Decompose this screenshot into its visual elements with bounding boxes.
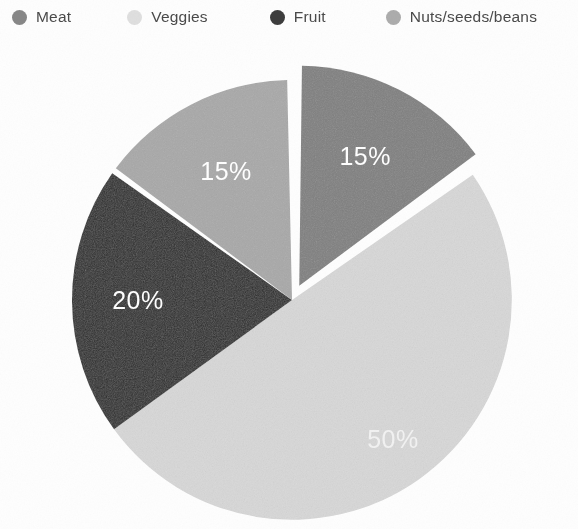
legend-swatch-fruit-icon [270, 10, 285, 25]
legend-item-fruit[interactable]: Fruit [270, 8, 326, 26]
pie-slice-label-nuts-seeds-beans: 15% [200, 157, 252, 185]
legend-label-veggies: Veggies [151, 8, 208, 26]
pie-plot-area: 15%50%20%15% [0, 34, 578, 529]
pie-slice-label-veggies: 50% [367, 425, 419, 453]
legend-item-meat[interactable]: Meat [12, 8, 71, 26]
legend-swatch-meat-icon [12, 10, 27, 25]
legend-label-nuts-seeds-beans: Nuts/seeds/beans [410, 8, 537, 26]
legend-item-veggies[interactable]: Veggies [127, 8, 208, 26]
legend-label-meat: Meat [36, 8, 71, 26]
legend-swatch-nuts-seeds-beans-icon [386, 10, 401, 25]
legend-label-fruit: Fruit [294, 8, 326, 26]
pie-slice-label-meat: 15% [339, 142, 391, 170]
pie-slice-label-fruit: 20% [112, 286, 164, 314]
pie-chart-figure: Meat Veggies Fruit Nuts/seeds/beans [0, 0, 578, 529]
chart-legend: Meat Veggies Fruit Nuts/seeds/beans [0, 0, 578, 34]
legend-swatch-veggies-icon [127, 10, 142, 25]
pie-svg: 15%50%20%15% [0, 34, 578, 529]
legend-item-nuts-seeds-beans[interactable]: Nuts/seeds/beans [386, 8, 537, 26]
